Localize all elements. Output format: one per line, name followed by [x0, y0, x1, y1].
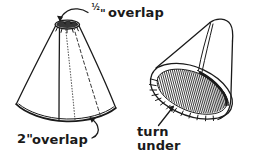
- left-cone-right-slant: [79, 25, 116, 108]
- figure-root: ½ " overlap 2" overlap turn under: [0, 0, 258, 156]
- label-under: under: [137, 138, 181, 153]
- label-two-inch-word: overlap: [32, 132, 88, 147]
- left-cone-fold-dashed: [74, 27, 101, 117]
- label-half-inch-overlap: ½ " overlap: [92, 2, 164, 21]
- cone-lampshade-diagram: ½ " overlap 2" overlap turn under: [0, 0, 258, 156]
- right-cone-upper-slant: [156, 23, 210, 69]
- label-half-numerator: ½: [92, 2, 100, 12]
- right-cone-apex: [210, 19, 233, 41]
- label-half-inch-unit: ": [100, 7, 106, 20]
- left-cone-apex-scribble: [56, 21, 78, 28]
- left-cone-group: [16, 20, 116, 121]
- left-cone-seam-solid: [59, 28, 60, 120]
- label-turn-under: turn under: [137, 124, 181, 153]
- label-two-inch-number: 2": [17, 131, 33, 146]
- label-half-overlap-word: overlap: [108, 5, 164, 20]
- label-two-inch-overlap: 2" overlap: [17, 131, 88, 147]
- arrow-two-inch-overlap: [89, 117, 98, 138]
- arrow-half-inch-overlap: [57, 9, 88, 22]
- left-cone-outline: [16, 25, 56, 104]
- left-cone-fold-dotted: [66, 27, 76, 120]
- right-cone-group: [150, 19, 233, 127]
